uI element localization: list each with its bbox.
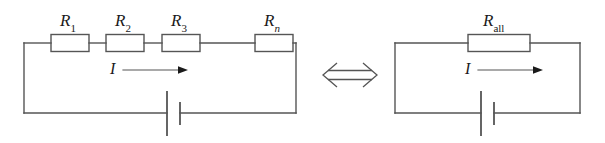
resistor-label-r3-sub: 3 [181, 22, 187, 34]
resistor-label-r1-main: R [60, 11, 70, 30]
resistor-label-rn: Rn [264, 12, 280, 32]
figure-canvas: R1 R2 R3 Rn I Rall I [0, 0, 605, 143]
series-circuit-group [24, 35, 296, 136]
resistor-label-r2-sub: 2 [125, 22, 131, 34]
equiv-arrowhead-left [323, 63, 337, 87]
resistor-label-rall-main: R [483, 11, 493, 30]
current-arrow-head-eq [533, 66, 543, 74]
current-label-right: I [465, 61, 470, 77]
resistor-label-r3: R3 [171, 12, 187, 32]
resistor-label-r1-sub: 1 [70, 22, 76, 34]
resistor-label-rn-main: R [264, 11, 274, 30]
equiv-arrowhead-right [363, 63, 377, 87]
resistor-box-r3 [162, 35, 200, 52]
resistor-label-r2-main: R [115, 11, 125, 30]
resistor-box-rall [468, 35, 530, 52]
resistor-label-r2: R2 [115, 12, 131, 32]
current-label-left: I [110, 61, 115, 77]
current-arrow-head [178, 66, 188, 74]
resistor-box-r1 [51, 35, 89, 52]
resistor-label-rn-sub: n [274, 22, 280, 34]
resistor-label-r3-main: R [171, 11, 181, 30]
resistor-box-rn [255, 35, 293, 52]
resistor-label-rall-sub: all [493, 22, 504, 34]
resistor-box-r2 [106, 35, 144, 52]
resistor-label-rall: Rall [483, 12, 504, 32]
equivalent-circuit-group [395, 35, 580, 136]
equivalence-arrow-group [323, 63, 377, 87]
circuit-diagram-svg [0, 0, 605, 143]
resistor-label-r1: R1 [60, 12, 76, 32]
